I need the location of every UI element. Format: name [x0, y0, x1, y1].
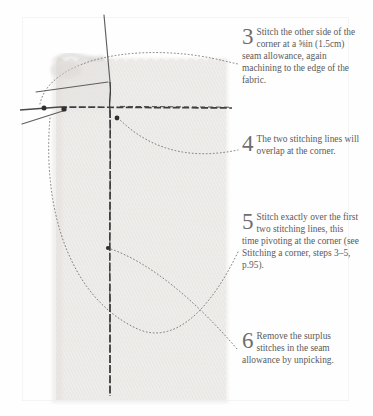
- instruction-steps: 3 Stitch the other side of the corner at…: [236, 0, 373, 416]
- fabric-fuzz: [50, 61, 82, 79]
- step-4-number: 4: [242, 134, 254, 154]
- pivot-dot-corner: [61, 106, 66, 111]
- fabric-swatch: [50, 50, 232, 406]
- page-root: 3 Stitch the other side of the corner at…: [0, 0, 373, 416]
- step-5-number: 5: [242, 212, 254, 232]
- pivot-dot-left: [42, 106, 47, 111]
- step-5: 5 Stitch exactly over the first two stit…: [242, 211, 360, 271]
- step-4: 4 The two stitching lines will overlap a…: [242, 133, 360, 157]
- step-6-text: Remove the surplus stitches in the seam …: [242, 330, 360, 366]
- step-5-text: Stitch exactly over the first two stitch…: [242, 211, 360, 271]
- fabric-corner-stitching-diagram: [0, 0, 240, 416]
- step-4-text: The two stitching lines will overlap at …: [242, 133, 360, 157]
- step-3: 3 Stitch the other side of the corner at…: [242, 26, 360, 86]
- pivot-dot-inner: [115, 116, 120, 121]
- step-6-number: 6: [242, 331, 254, 351]
- step-3-text: Stitch the other side of the corner at a…: [242, 26, 360, 86]
- step-3-number: 3: [242, 27, 254, 47]
- step-6: 6 Remove the surplus stitches in the sea…: [242, 330, 360, 366]
- pivot-dot-lower: [106, 246, 110, 250]
